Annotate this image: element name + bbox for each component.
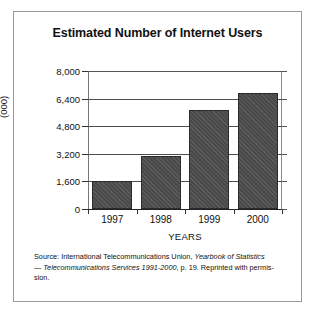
- bars-group: [88, 71, 282, 209]
- x-axis-tick-label: 1999: [198, 214, 220, 225]
- bar: [189, 110, 229, 209]
- x-tick-mark: [234, 209, 235, 214]
- y-axis-tick-label: 8,000: [34, 66, 80, 77]
- chart-figure: Estimated Number of Internet Users 01,60…: [0, 0, 315, 313]
- x-axis-tick-label: 1997: [101, 214, 123, 225]
- source-line1-prefix: Source: International Telecommunications…: [34, 252, 195, 261]
- x-tick-mark: [137, 209, 138, 214]
- y-axis-tick-label: 0: [34, 204, 80, 215]
- x-axis-title: YEARS: [88, 231, 282, 242]
- source-note: Source: International Telecommunications…: [34, 252, 282, 284]
- bar: [141, 156, 181, 209]
- y-axis-tick-label: 6,400: [34, 93, 80, 104]
- x-tick-mark: [185, 209, 186, 214]
- source-line2-italic: — Telecommunications Services 1991-2000: [34, 263, 177, 272]
- y-axis-tick-label: 4,800: [34, 121, 80, 132]
- y-axis-title: (000): [0, 96, 9, 118]
- x-tick-mark: [282, 209, 283, 214]
- bar: [238, 93, 278, 209]
- y-axis-tick-label: 3,200: [34, 148, 80, 159]
- x-axis-tick-label: 2000: [247, 214, 269, 225]
- source-line3: sion.: [34, 273, 49, 282]
- source-line1-italic: Yearbook of Statistics: [195, 252, 265, 261]
- x-tick-mark: [88, 209, 89, 214]
- y-axis-tick-label: 1,600: [34, 176, 80, 187]
- bar: [92, 181, 132, 209]
- source-line2-suffix: , p. 19. Reprinted with permis-: [177, 263, 274, 272]
- x-axis-tick-label: 1998: [150, 214, 172, 225]
